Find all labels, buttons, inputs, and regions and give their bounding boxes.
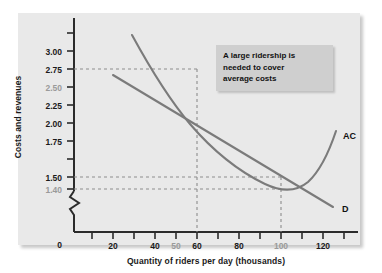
y-tick-label-2-75: 2.75 — [28, 65, 62, 75]
y-tick-label-2-50: 2.50 — [28, 83, 62, 93]
x-tick-label-120: 120 — [310, 241, 336, 251]
y-tick-label-1-75: 1.75 — [28, 137, 62, 147]
y-axis-ticks — [67, 33, 74, 189]
curve-label-d: D — [342, 204, 349, 214]
x-tick-label-60: 60 — [184, 241, 210, 251]
annotation-line-3: average costs — [223, 73, 327, 85]
annotation-line-2: needed to cover — [223, 62, 327, 74]
y-tick-label-2-25: 2.25 — [28, 101, 62, 111]
x-tick-label-20: 20 — [100, 241, 126, 251]
x-tick-label-100: 100 — [268, 241, 294, 251]
x-axis-ticks — [92, 232, 344, 239]
x-tick-label-80: 80 — [226, 241, 252, 251]
y-tick-label-1-40: 1.40 — [28, 185, 62, 195]
y-tick-label-1-50: 1.50 — [28, 173, 62, 183]
y-tick-label-origin: 0 — [28, 240, 62, 250]
guide-lines — [74, 69, 281, 232]
chart-figure: 3.00 2.75 2.50 2.25 2.00 1.75 1.50 1.40 … — [0, 0, 382, 273]
x-axis-title: Quantity of riders per day (thousands) — [96, 256, 316, 266]
y-axis-break-zigzag — [70, 191, 79, 232]
y-tick-label-3-00: 3.00 — [28, 47, 62, 57]
y-axis-title: Costs and revenues — [13, 69, 23, 165]
y-tick-label-2-00: 2.00 — [28, 119, 62, 129]
curve-label-ac: AC — [343, 131, 356, 141]
annotation-callout: A large ridership is needed to cover ave… — [216, 45, 333, 91]
annotation-line-1: A large ridership is — [223, 50, 327, 62]
